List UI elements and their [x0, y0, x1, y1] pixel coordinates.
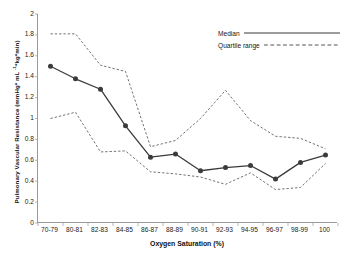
y-axis-tick-label: 1.2 — [12, 94, 34, 101]
y-axis-tick-label: 0 — [12, 220, 34, 227]
y-axis-tick-label: 1 — [12, 115, 34, 122]
x-axis-tick-label: 90-91 — [191, 227, 208, 234]
legend-item-median: Median — [218, 27, 340, 39]
data-point-marker — [198, 168, 203, 173]
x-axis-tick-label: 92-93 — [216, 227, 233, 234]
data-point-marker — [273, 177, 278, 182]
data-point-marker — [123, 123, 128, 128]
x-axis-tick-label: 98-99 — [291, 227, 308, 234]
y-axis-tick-labels: 21.81.61.41.210.80.60.40.20 — [8, 0, 34, 260]
chart-legend: Median Quartile range — [218, 27, 340, 53]
data-point-marker — [148, 155, 153, 160]
y-axis-tick-label: 0.2 — [12, 199, 34, 206]
data-point-marker — [98, 87, 103, 92]
x-axis-tick-label: 82-83 — [91, 227, 108, 234]
data-point-marker — [223, 165, 228, 170]
data-point-marker — [248, 163, 253, 168]
series-line-quartile-range-lower — [51, 112, 326, 189]
series-line-median — [51, 66, 326, 179]
y-axis-tick-label: 0.6 — [12, 157, 34, 164]
y-axis-tick-label: 1.6 — [12, 52, 34, 59]
x-axis-tick-label: 84-85 — [116, 227, 133, 234]
data-point-marker — [173, 152, 178, 157]
legend-label-median: Median — [218, 30, 240, 37]
x-axis-tick-label: 80-81 — [66, 227, 83, 234]
y-axis-tick-label: 0.8 — [12, 136, 34, 143]
legend-item-quartile-range: Quartile range — [218, 39, 340, 51]
data-point-marker — [323, 153, 328, 158]
legend-label-quartile-range: Quartile range — [218, 42, 260, 49]
data-point-marker — [298, 160, 303, 165]
y-axis-tick-label: 1.8 — [12, 31, 34, 38]
x-axis-tick-label: 100 — [319, 227, 330, 234]
x-axis-tick-label: 88-89 — [166, 227, 183, 234]
legend-swatch-solid-line — [244, 30, 340, 36]
x-axis-tick-label: 96-97 — [266, 227, 283, 234]
legend-swatch-dashed-line — [264, 42, 340, 48]
x-axis-title: Oxygen Saturation (%) — [37, 240, 337, 247]
chart-container: Pulmonary Vascular Resistance (mmHg* mL … — [0, 0, 345, 260]
x-axis-tick-label: 86-87 — [141, 227, 158, 234]
y-axis-tick-label: 1.4 — [12, 73, 34, 80]
y-axis-tick-label: 2 — [12, 11, 34, 18]
data-point-marker — [48, 64, 53, 69]
x-axis-tick-label: 94-95 — [241, 227, 258, 234]
y-axis-tick-label: 0.4 — [12, 178, 34, 185]
x-axis-tick-labels: 70-7980-8182-8384-8586-8788-8990-9192-93… — [37, 227, 337, 239]
data-point-marker — [73, 76, 78, 81]
x-axis-tick-label: 70-79 — [41, 227, 58, 234]
